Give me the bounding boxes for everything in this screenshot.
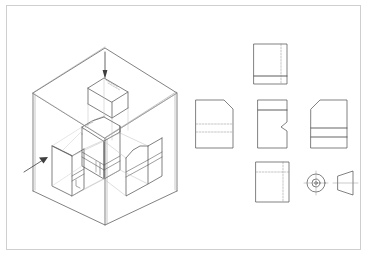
view-top xyxy=(254,44,287,84)
view-bottom xyxy=(256,162,289,202)
view-cone xyxy=(333,171,358,195)
view-front xyxy=(258,100,287,148)
drawing-canvas xyxy=(0,0,368,257)
projected-left-view xyxy=(52,146,84,196)
view-right xyxy=(311,100,347,148)
projected-top-view xyxy=(88,78,128,118)
drawing-sheet: Orthographic Projection Glass Box Illust… xyxy=(0,0,368,257)
top-projection-arrow xyxy=(103,52,108,79)
view-left xyxy=(196,100,233,148)
technical-drawing-svg xyxy=(0,0,368,257)
projected-front-view xyxy=(126,138,162,196)
left-projection-arrow xyxy=(24,157,48,172)
view-circle xyxy=(304,171,328,195)
projection-rays-top xyxy=(88,78,128,140)
